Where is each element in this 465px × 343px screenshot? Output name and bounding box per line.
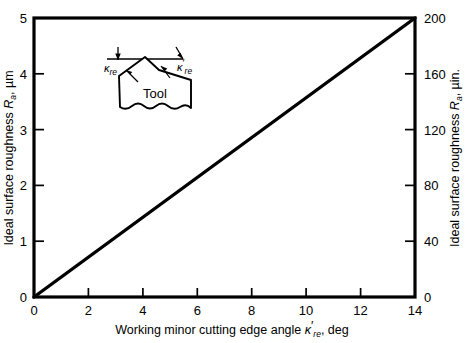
left-kappa-subscript: re [110,67,118,77]
y-right-tick-label: 200 [424,11,446,26]
y-left-title-symbol: R [2,100,16,109]
y-right-title-prefix: Ideal surface roughness [448,110,462,247]
y-left-title-prefix: Ideal surface roughness [2,109,16,246]
y-right-tick-label: 0 [424,290,431,305]
y-tick-label: 3 [20,123,27,138]
y-right-tick-label: 160 [424,67,446,82]
tool-label: Tool [143,86,167,101]
x-tick-label: 2 [85,303,92,318]
y-tick-label: 0 [20,290,27,305]
x-title-prefix: Working minor cutting edge angle [115,323,304,337]
y-right-title-suffix: , µin. [448,69,462,96]
x-title-suffix: , deg [321,323,349,337]
x-tick-label: 12 [353,303,367,318]
x-tick-label: 14 [408,303,422,318]
svg-text:Ideal surface roughness Ra, µi: Ideal surface roughness Ra, µin. [448,69,464,247]
y-right-tick-label: 80 [424,178,438,193]
y-right-tick-label: 120 [424,123,446,138]
y-right-tick-label: 40 [424,234,438,249]
right-kappa-subscript: re [185,66,193,76]
y-left-title-suffix: , µm [2,70,16,95]
y-tick-label: 5 [20,11,27,26]
x-tick-label: 4 [139,303,146,318]
x-tick-label: 6 [194,303,201,318]
chart-background [0,0,465,343]
x-tick-label: 8 [248,303,255,318]
x-tick-label: 10 [299,303,313,318]
y-tick-label: 4 [20,67,27,82]
y-axis-right-title: Ideal surface roughness Ra, µin. [448,69,464,247]
chart-figure: 0 2 4 6 8 10 12 14 0 1 2 3 4 5 0 40 80 1… [0,0,465,343]
y-tick-label: 2 [20,178,27,193]
ideal-surface-roughness-chart: 0 2 4 6 8 10 12 14 0 1 2 3 4 5 0 40 80 1… [0,0,465,343]
y-tick-label: 1 [20,234,27,249]
y-right-title-symbol: R [448,101,462,110]
x-tick-label: 0 [30,303,37,318]
